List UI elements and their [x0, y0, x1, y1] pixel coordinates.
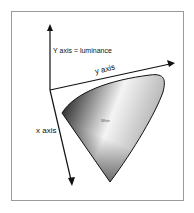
x-arrow-icon: [68, 177, 75, 186]
luminance-axis-label: Y axis = luminance: [53, 47, 112, 54]
gamut-shape: [62, 75, 164, 182]
luminance-arrow-icon: [47, 24, 53, 31]
x-axis-label: x axis: [36, 126, 56, 135]
x-axis-line: [50, 90, 71, 180]
y-arrow-icon: [167, 60, 175, 67]
white-point-label: White: [101, 119, 110, 123]
gamut-diagram: [0, 0, 194, 213]
